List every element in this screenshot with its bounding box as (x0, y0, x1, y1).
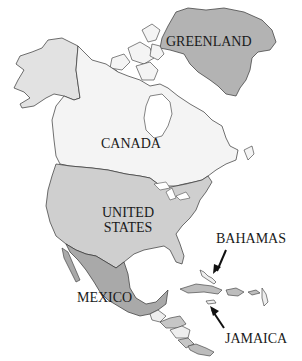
label-united-states-line2: STATES (92, 220, 164, 235)
region-caribbean (180, 270, 268, 306)
region-jamaica (206, 300, 216, 304)
region-alaska (14, 38, 80, 108)
label-greenland: GREENLAND (166, 34, 252, 49)
jamaica-arrow (210, 306, 224, 328)
label-united-states: UNITED STATES (92, 205, 164, 235)
label-united-states-line1: UNITED (92, 205, 164, 220)
region-central-america (150, 310, 214, 356)
region-greenland (160, 8, 276, 96)
label-canada: CANADA (101, 136, 161, 151)
north-america-map (0, 0, 302, 361)
label-mexico: MEXICO (77, 290, 132, 305)
label-jamaica: JAMAICA (225, 331, 287, 346)
region-newfoundland (244, 146, 254, 160)
bahamas-arrow (213, 250, 226, 274)
label-bahamas: BAHAMAS (216, 231, 286, 246)
